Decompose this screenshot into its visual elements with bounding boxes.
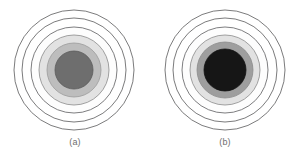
figure-b: (b) (150, 0, 300, 156)
figure-a: (a) (0, 0, 150, 156)
concentric-rings-diagram-b (155, 4, 295, 136)
figure-a-caption: (a) (0, 136, 150, 148)
concentric-rings-diagram-a (5, 4, 145, 136)
ring-a-core-disc (55, 51, 93, 89)
figure-panel: (a) (b) (0, 0, 300, 156)
ring-b-core-disc (204, 49, 246, 91)
figure-b-caption: (b) (150, 136, 300, 148)
